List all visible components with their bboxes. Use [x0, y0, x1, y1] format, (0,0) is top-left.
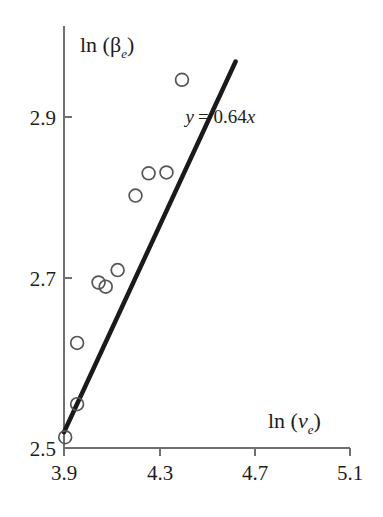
fit-eq-x: x — [246, 106, 256, 127]
y-axis-title-var: β — [110, 32, 121, 57]
x-tick-label-4.7: 4.7 — [242, 461, 268, 485]
x-tick-label-3.9: 3.9 — [51, 461, 77, 485]
x-tick-label-4.3: 4.3 — [147, 461, 173, 485]
x-axis-title-var: v — [298, 408, 308, 433]
scatter-plot: 2.9 2.7 2.5 3.9 4.3 4.7 5.1 ln (βe) ln (… — [0, 0, 383, 517]
x-axis-title-suffix: ) — [314, 408, 321, 433]
y-tick-label-2.9: 2.9 — [30, 106, 56, 130]
y-axis-title-prefix: ln ( — [80, 32, 110, 57]
x-axis-title: ln (ve) — [268, 408, 321, 437]
fit-eq-y: y — [184, 106, 195, 127]
svg-text:ln (ve): ln (ve) — [268, 408, 321, 437]
x-tick-label-5.1: 5.1 — [337, 461, 363, 485]
plot-background — [0, 0, 383, 517]
x-axis-title-prefix: ln ( — [268, 408, 298, 433]
y-tick-label-2.7: 2.7 — [30, 267, 56, 291]
y-axis-title: ln (βe) — [80, 32, 134, 61]
y-tick-label-2.5: 2.5 — [30, 437, 56, 461]
y-axis-title-suffix: ) — [127, 32, 134, 57]
fit-eq-body: = 0.64 — [198, 106, 247, 127]
svg-text:ln (βe): ln (βe) — [80, 32, 134, 61]
figure-container: 2.9 2.7 2.5 3.9 4.3 4.7 5.1 ln (βe) ln (… — [0, 0, 383, 517]
